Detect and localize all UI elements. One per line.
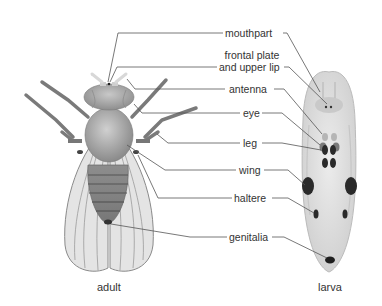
diagram-art: [0, 0, 382, 306]
caption-adult: adult: [97, 281, 121, 293]
label-leg: leg: [243, 137, 257, 149]
label-antenna: antenna: [229, 83, 267, 95]
label-frontal-plate-line1: frontal plate: [221, 49, 283, 61]
caption-larva: larva: [318, 281, 342, 293]
label-eye: eye: [243, 107, 260, 119]
label-wing: wing: [239, 164, 261, 176]
larva: [302, 71, 357, 272]
label-frontal-plate-line2: and upper lip: [219, 61, 280, 73]
label-genitalia: genitalia: [229, 231, 268, 243]
label-mouthpart: mouthpart: [225, 27, 272, 39]
label-haltere: haltere: [234, 192, 266, 204]
adult-fly: [26, 74, 196, 271]
